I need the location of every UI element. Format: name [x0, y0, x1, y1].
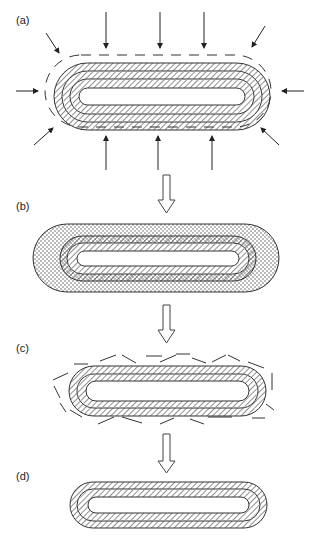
panel-label-d: (d) [16, 470, 29, 482]
panel-c [53, 354, 274, 424]
hollow-down-arrow-icon [158, 175, 175, 213]
arrow-icon [46, 33, 59, 53]
hollow-down-arrow-icon [158, 434, 175, 473]
panel-b [33, 224, 279, 292]
diagram-canvas [0, 0, 314, 542]
panel-d [70, 482, 267, 528]
panel-label-a: (a) [16, 14, 29, 26]
hollow-down-arrow-icon [158, 305, 175, 343]
panel-label-c: (c) [16, 342, 29, 354]
arrow-icon [252, 26, 265, 47]
arrow-icon [261, 128, 279, 145]
panel-a [16, 12, 304, 170]
panel-label-b: (b) [16, 200, 29, 212]
arrow-icon [34, 128, 53, 145]
